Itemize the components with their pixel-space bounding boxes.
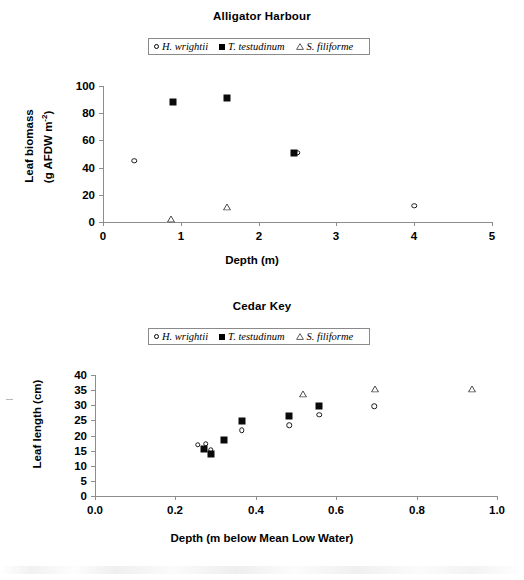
x-tick-label: 0.8 — [397, 504, 437, 516]
data-point-circle — [411, 203, 417, 209]
y-axis-line — [95, 375, 96, 496]
y-tick — [99, 86, 103, 87]
x-tick-label: 1.0 — [477, 504, 517, 516]
x-tick — [492, 222, 493, 226]
y-tick-label: 40 — [61, 369, 87, 381]
y-axis-title-top-units: (g AFDW m-2) — [40, 72, 54, 222]
y-axis-title-top: Leaf biomass — [23, 71, 35, 221]
y-axis-title-top-line2: (g AFDW m — [42, 122, 54, 184]
y-tick — [91, 481, 95, 482]
data-point-triangle — [223, 204, 231, 211]
x-tick — [256, 496, 257, 500]
y-tick-label: 60 — [61, 134, 95, 146]
x-axis-title-bottom: Depth (m below Mean Low Water) — [112, 532, 412, 544]
y-axis-title-bottom: Leaf length (cm) — [31, 349, 43, 499]
y-tick — [99, 195, 103, 196]
y-tick-label: 35 — [61, 384, 87, 396]
x-tick-label: 0.6 — [316, 504, 356, 516]
data-point-triangle — [167, 216, 175, 223]
x-tick — [259, 222, 260, 226]
x-tick — [336, 222, 337, 226]
x-tick — [181, 222, 182, 226]
x-tick-label: 0.0 — [75, 504, 115, 516]
data-point-circle — [239, 428, 245, 434]
data-point-square — [224, 95, 231, 102]
y-axis-title-top-line1: Leaf biomass — [23, 109, 35, 183]
data-point-square — [220, 436, 227, 443]
data-point-circle — [131, 158, 137, 164]
x-tick — [414, 222, 415, 226]
y-tick — [91, 405, 95, 406]
x-tick — [103, 222, 104, 226]
y-tick-label: 0 — [61, 490, 87, 502]
y-tick — [91, 451, 95, 452]
y-tick — [91, 436, 95, 437]
y-tick — [91, 390, 95, 391]
y-tick-label: 25 — [61, 414, 87, 426]
data-point-triangle — [468, 385, 476, 392]
x-tick-label: 0.4 — [236, 504, 276, 516]
y-tick — [91, 375, 95, 376]
x-tick-label: 0 — [83, 230, 123, 242]
data-point-circle — [317, 412, 323, 418]
data-point-circle — [372, 404, 378, 410]
x-tick — [95, 496, 96, 500]
y-tick-label: 40 — [61, 162, 95, 174]
y-tick-label: 10 — [61, 460, 87, 472]
data-point-square — [290, 149, 297, 156]
figure-cedar-key: Cedar Key H. wrightiiT. testudinumS. fil… — [0, 290, 524, 580]
x-axis-title-top: Depth (m) — [162, 254, 342, 266]
y-axis-title-top-exponent: -2 — [40, 115, 49, 122]
data-point-square — [316, 403, 323, 410]
plot-area-top: 020406080100012345 — [0, 0, 524, 290]
data-point-square — [207, 450, 214, 457]
scan-speck-left — [6, 399, 13, 400]
x-tick — [336, 496, 337, 500]
x-tick-label: 0.2 — [155, 504, 195, 516]
y-tick — [99, 168, 103, 169]
x-tick-label: 3 — [316, 230, 356, 242]
data-point-square — [238, 417, 245, 424]
data-point-triangle — [299, 391, 307, 398]
y-tick-label: 30 — [61, 399, 87, 411]
data-point-circle — [195, 442, 201, 448]
x-tick-label: 2 — [239, 230, 279, 242]
data-point-square — [286, 413, 293, 420]
y-axis-title-top-line2-end: ) — [42, 111, 54, 115]
y-tick — [99, 140, 103, 141]
data-point-square — [170, 99, 177, 106]
y-tick-label: 100 — [61, 80, 95, 92]
y-tick-label: 20 — [61, 430, 87, 442]
x-axis-line — [103, 222, 492, 223]
x-tick-label: 5 — [472, 230, 512, 242]
y-tick-label: 80 — [61, 107, 95, 119]
x-tick — [497, 496, 498, 500]
x-axis-line — [95, 496, 497, 497]
x-tick — [417, 496, 418, 500]
x-tick-label: 4 — [394, 230, 434, 242]
y-tick-label: 0 — [61, 216, 95, 228]
page-scan-artifact — [0, 566, 524, 574]
y-axis-line — [103, 86, 104, 222]
data-point-circle — [286, 422, 292, 428]
x-tick-label: 1 — [161, 230, 201, 242]
y-tick — [99, 113, 103, 114]
y-tick-label: 20 — [61, 189, 95, 201]
data-point-triangle — [371, 386, 379, 393]
y-tick — [91, 466, 95, 467]
x-tick — [175, 496, 176, 500]
y-tick — [91, 420, 95, 421]
figure-alligator-harbour: Alligator Harbour H. wrightiiT. testudin… — [0, 0, 524, 290]
y-tick-label: 15 — [61, 445, 87, 457]
y-tick-label: 5 — [61, 475, 87, 487]
